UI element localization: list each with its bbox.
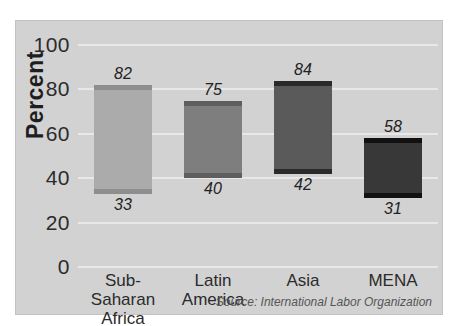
range-bar: 7540 bbox=[184, 101, 242, 179]
gridline: 100 bbox=[78, 44, 438, 46]
x-axis-category-label: Sub- Saharan Africa bbox=[78, 271, 168, 326]
bar-value-low-label: 42 bbox=[294, 176, 312, 194]
y-axis-tick-label: 100 bbox=[33, 33, 70, 57]
bar-cap-top bbox=[94, 85, 152, 90]
x-axis-category-label: MENA bbox=[348, 271, 438, 290]
gridline: 20 bbox=[78, 222, 438, 224]
bar-value-high-label: 82 bbox=[114, 65, 132, 83]
bar-cap-bottom bbox=[364, 193, 422, 198]
bar-cap-top bbox=[184, 101, 242, 106]
source-note: Source: International Labor Organization bbox=[216, 295, 432, 309]
y-axis-tick-label: 20 bbox=[46, 211, 70, 235]
x-axis-category-label: Asia bbox=[258, 271, 348, 290]
y-axis-tick-label: 80 bbox=[46, 77, 70, 101]
chart-screenshot: Percent 020406080100 8233754084425831 Su… bbox=[0, 0, 455, 326]
y-axis-tick-label: 60 bbox=[46, 122, 70, 146]
plot-area: 020406080100 8233754084425831 Sub- Sahar… bbox=[78, 45, 438, 267]
range-bar: 8442 bbox=[274, 81, 332, 174]
bar-cap-bottom bbox=[274, 169, 332, 174]
chart-panel: Percent 020406080100 8233754084425831 Su… bbox=[15, 20, 443, 315]
bar-value-high-label: 75 bbox=[204, 81, 222, 99]
bar-value-low-label: 40 bbox=[204, 180, 222, 198]
bar-cap-bottom bbox=[184, 173, 242, 178]
bar-value-high-label: 58 bbox=[384, 118, 402, 136]
y-axis-tick-label: 0 bbox=[58, 255, 70, 279]
bar-cap-top bbox=[364, 138, 422, 143]
range-bar: 5831 bbox=[364, 138, 422, 198]
bar-cap-top bbox=[274, 81, 332, 86]
bar-cap-bottom bbox=[94, 189, 152, 194]
gridline: 0 bbox=[78, 266, 438, 268]
bar-value-low-label: 31 bbox=[384, 200, 402, 218]
y-axis-tick-label: 40 bbox=[46, 166, 70, 190]
range-bar: 8233 bbox=[94, 85, 152, 194]
bar-value-high-label: 84 bbox=[294, 61, 312, 79]
bar-value-low-label: 33 bbox=[114, 196, 132, 214]
